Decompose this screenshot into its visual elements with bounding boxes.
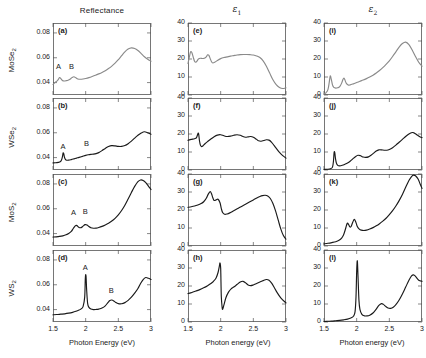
axes-frame	[54, 99, 151, 170]
y-tick-label: 0.06	[23, 204, 50, 211]
y-tick-label: 30	[294, 263, 321, 270]
data-curve-g	[188, 192, 286, 240]
row-label-ws2: WS2	[7, 263, 18, 313]
y-tick-label: 40	[294, 245, 321, 252]
peak-annotation-a-a: A	[56, 62, 61, 71]
y-tick-label: 40	[158, 245, 185, 252]
panel-f: (f)	[188, 98, 286, 170]
plot-area-l	[324, 250, 422, 322]
row-label-wse2: WSe2	[7, 112, 18, 162]
y-tick-label: 30	[158, 111, 185, 118]
data-curve-d	[53, 275, 151, 315]
y-tick-label: 10	[294, 223, 321, 230]
y-tick-label: 20	[294, 129, 321, 136]
peak-annotation-b-b: B	[84, 139, 89, 148]
data-curve-a	[53, 48, 151, 85]
y-tick-label: 10	[294, 299, 321, 306]
data-curve-b	[53, 132, 151, 163]
y-tick-label: 40	[158, 93, 185, 100]
panel-label-k: (k)	[329, 177, 338, 186]
panel-h: (h)	[188, 250, 286, 322]
x-tick-label: 2.5	[243, 325, 263, 332]
y-tick-label: 20	[294, 281, 321, 288]
peak-annotation-a-b: A	[60, 142, 65, 151]
axes-frame	[54, 24, 151, 95]
peak-annotation-b-a: B	[69, 62, 74, 71]
row-label-mos2: MoS2	[7, 187, 18, 237]
y-tick-label: 0.04	[23, 153, 50, 160]
x-tick-label: 3	[412, 325, 426, 332]
y-tick-label: 0.04	[23, 305, 50, 312]
data-curve-c	[53, 180, 151, 237]
plot-area-j	[324, 98, 422, 170]
panel-b: (b)AB	[53, 98, 151, 170]
x-tick-label: 1.5	[314, 325, 334, 332]
axes-frame	[325, 24, 422, 95]
y-tick-label: 20	[158, 205, 185, 212]
panel-k: (k)	[324, 174, 422, 246]
y-tick-label: 0.06	[23, 280, 50, 287]
y-tick-label: 40	[294, 93, 321, 100]
panel-label-e: (e)	[193, 26, 202, 35]
x-tick-label: 2.5	[108, 325, 128, 332]
y-tick-label: 30	[294, 36, 321, 43]
y-tick-label: 10	[294, 147, 321, 154]
y-tick-label: 10	[294, 72, 321, 79]
x-tick-label: 1.5	[43, 325, 63, 332]
panel-label-f: (f)	[193, 101, 201, 110]
x-tick-label: 2	[211, 325, 231, 332]
x-tick-label: 2	[347, 325, 367, 332]
panel-label-j: (j)	[329, 101, 336, 110]
y-tick-label: 30	[294, 187, 321, 194]
y-tick-label: 0	[158, 317, 185, 324]
panel-label-i: (i)	[329, 26, 336, 35]
y-tick-label: 20	[294, 205, 321, 212]
plot-area-c	[53, 174, 151, 246]
figure-root: Reflectance ε1 ε2 MoSe2 WSe2 MoS2 WS2 (a…	[0, 0, 426, 358]
data-curve-l	[324, 261, 422, 322]
column-title-reflectance: Reflectance	[53, 6, 151, 15]
axes-frame	[325, 251, 422, 322]
x-tick-label: 2	[76, 325, 96, 332]
panel-label-c: (c)	[58, 177, 67, 186]
axes-frame	[189, 251, 286, 322]
panel-j: (j)	[324, 98, 422, 170]
row-label-mose2: MoSe2	[7, 35, 18, 85]
y-tick-label: 0.06	[23, 128, 50, 135]
panel-a: (a)AB	[53, 23, 151, 95]
y-tick-label: 10	[158, 223, 185, 230]
y-tick-label: 30	[158, 36, 185, 43]
y-tick-label: 40	[294, 18, 321, 25]
y-tick-label: 0.08	[23, 28, 50, 35]
peak-annotation-a-d: A	[83, 263, 88, 272]
plot-area-a	[53, 23, 151, 95]
data-curve-h	[188, 263, 286, 309]
y-tick-label: 20	[158, 129, 185, 136]
data-curve-e	[188, 51, 286, 88]
xaxis-label-col1: Photon Energy (eV)	[45, 338, 159, 347]
data-curve-j	[324, 132, 422, 169]
plot-area-f	[188, 98, 286, 170]
xaxis-label-col3: Photon energy (eV)	[317, 338, 426, 347]
x-tick-label: 3	[141, 325, 161, 332]
y-tick-label: 0.06	[23, 53, 50, 60]
x-tick-label: 2.5	[379, 325, 399, 332]
panel-g: (g)	[188, 174, 286, 246]
panel-label-b: (b)	[58, 101, 68, 110]
y-tick-label: 30	[158, 187, 185, 194]
plot-area-i	[324, 23, 422, 95]
axes-frame	[189, 99, 286, 170]
y-tick-label: 40	[294, 169, 321, 176]
panel-label-h: (h)	[193, 253, 203, 262]
panel-e: (e)	[188, 23, 286, 95]
peak-annotation-b-c: B	[83, 207, 88, 216]
y-tick-label: 0.08	[23, 255, 50, 262]
plot-area-e	[188, 23, 286, 95]
panel-i: (i)	[324, 23, 422, 95]
y-tick-label: 10	[158, 299, 185, 306]
y-tick-label: 40	[158, 18, 185, 25]
data-curve-f	[188, 133, 286, 158]
peak-annotation-b-d: B	[109, 286, 114, 295]
xaxis-label-col2: Photon energy (eV)	[181, 338, 295, 347]
y-tick-label: 0.04	[23, 229, 50, 236]
